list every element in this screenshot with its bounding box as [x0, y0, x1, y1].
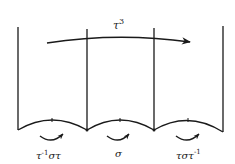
twist-label-1: τ-1στ [36, 149, 61, 161]
twist-arrow-3 [176, 134, 199, 140]
vertex-2 [86, 129, 89, 132]
twist-label-2: σ [115, 148, 123, 159]
braid-diagram: τ3 τ-1στ σ τστ-1 [0, 0, 235, 164]
twist-arrow-2 [107, 134, 129, 140]
twist-arrow-1 [40, 134, 63, 140]
tau-cubed-label: τ3 [113, 17, 124, 32]
vertex-3 [153, 129, 156, 132]
twist-label-3: τστ-1 [176, 148, 201, 161]
tau-cubed-arrow [47, 37, 190, 43]
bottom-arc-3 [154, 120, 223, 132]
